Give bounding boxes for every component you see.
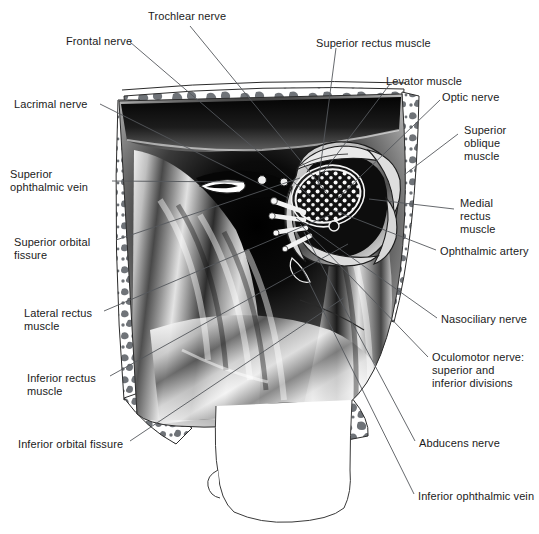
label-superior-rectus-muscle: Superior rectus muscle [316, 37, 431, 50]
label-levator-muscle: Levator muscle [386, 75, 462, 88]
label-lacrimal-nerve: Lacrimal nerve [14, 98, 88, 111]
ophthalmic-artery-section [329, 221, 339, 231]
label-optic-nerve: Optic nerve [442, 91, 499, 104]
label-inferior-orbital-fissure: Inferior orbital fissure [18, 438, 123, 451]
anatomical-figure: Trochlear nerveFrontal nerveLacrimal ner… [0, 0, 539, 534]
label-superior-ophthalmic-vein: Superior ophthalmic vein [10, 168, 88, 194]
label-superior-orbital-fissure: Superior orbital fissure [14, 236, 90, 262]
label-nasociliary-nerve: Nasociliary nerve [441, 313, 527, 326]
label-trochlear-nerve: Trochlear nerve [148, 10, 226, 23]
label-superior-oblique-muscle: Superior oblique muscle [464, 124, 506, 163]
label-medial-rectus-muscle: Medial rectus muscle [460, 197, 495, 236]
label-inferior-rectus-muscle: Inferior rectus muscle [27, 372, 96, 398]
orbital-cavity [110, 88, 430, 433]
maxilla-outline [208, 400, 352, 522]
label-lateral-rectus-muscle: Lateral rectus muscle [24, 307, 92, 333]
label-inferior-ophthalmic-vein: Inferior ophthalmic vein [418, 490, 534, 503]
label-ophthalmic-artery: Ophthalmic artery [440, 245, 529, 258]
label-oculomotor-nerve: Oculomotor nerve: superior and inferior … [432, 351, 524, 390]
label-frontal-nerve: Frontal nerve [66, 35, 132, 48]
label-abducens-nerve: Abducens nerve [419, 437, 500, 450]
